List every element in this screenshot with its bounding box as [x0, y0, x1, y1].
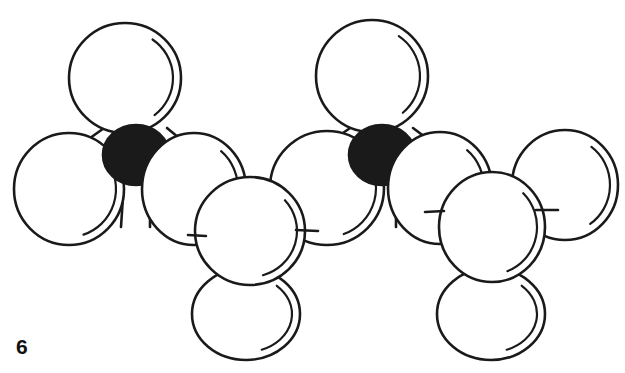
atom-h-front-right: [439, 172, 545, 282]
molecule-diagram: [0, 0, 625, 373]
atom-h-top-right: [316, 20, 428, 132]
hydrogen-atom-sphere: [69, 23, 181, 133]
figure-container: 6: [0, 0, 625, 373]
atom-h-front-left: [195, 177, 305, 285]
contact-seam: [425, 211, 444, 212]
hydrogen-atom-sphere: [195, 177, 305, 285]
contact-seam: [188, 235, 206, 236]
atom-h-top-left: [69, 23, 181, 133]
atom-layer: [14, 20, 618, 360]
hydrogen-atom-sphere: [439, 172, 545, 282]
contact-seam: [296, 230, 318, 231]
hydrogen-atom-sphere: [316, 20, 428, 132]
figure-number-label: 6: [16, 336, 28, 357]
